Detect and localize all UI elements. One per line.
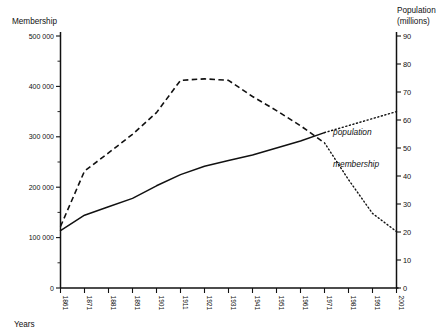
right-tick-label: 10 (403, 256, 411, 265)
left-axis: 0100 000200 000300 000400 000500 000 (29, 32, 61, 292)
x-tick-label: 1941 (254, 296, 261, 311)
left-tick-label: 0 (50, 285, 54, 292)
left-tick-label: 500 000 (29, 33, 54, 40)
right-axis-title-line2: (millions) (397, 17, 430, 26)
x-axis: 1861187118811891190119111921193119411951… (61, 288, 406, 311)
right-axis: 0102030405060708090 (397, 32, 412, 293)
series-group (61, 79, 397, 232)
x-tick-label: 2001 (398, 296, 405, 311)
series-line-population (61, 133, 325, 231)
right-tick-label: 70 (403, 88, 411, 97)
x-tick-label: 1901 (158, 296, 165, 311)
right-tick-label: 30 (403, 200, 411, 209)
right-tick-label: 60 (403, 116, 411, 125)
x-tick-label: 1921 (206, 296, 213, 311)
right-tick-label: 90 (403, 32, 411, 41)
x-axis-title: Years (14, 320, 35, 329)
series-label-population: population (332, 127, 372, 137)
series-projection-membership (325, 143, 397, 232)
x-tick-label: 1951 (278, 296, 285, 311)
right-tick-label: 0 (403, 284, 407, 293)
x-tick-label: 1931 (230, 296, 237, 311)
x-tick-label: 1861 (62, 296, 69, 311)
left-tick-label: 200 000 (29, 184, 54, 191)
x-tick-label: 1961 (302, 296, 309, 311)
right-tick-label: 40 (403, 172, 411, 181)
right-axis-title-line1: Population (397, 6, 436, 15)
right-tick-label: 80 (403, 60, 411, 69)
right-tick-label: 50 (403, 144, 411, 153)
series-label-membership: membership (333, 159, 379, 169)
x-tick-label: 1911 (182, 296, 189, 311)
x-tick-label: 1881 (110, 296, 117, 311)
x-tick-label: 1981 (350, 296, 357, 311)
chart-container: Membership Population (millions) Years 0… (0, 0, 441, 334)
series-line-membership (61, 79, 325, 227)
x-tick-label: 1991 (374, 296, 381, 311)
left-tick-label: 100 000 (29, 234, 54, 241)
line-chart: Membership Population (millions) Years 0… (0, 0, 441, 334)
left-axis-title: Membership (12, 17, 57, 26)
x-tick-label: 1871 (86, 296, 93, 311)
x-tick-label: 1891 (134, 296, 141, 311)
left-tick-label: 400 000 (29, 83, 54, 90)
x-tick-label: 1971 (326, 296, 333, 311)
left-tick-label: 300 000 (29, 133, 54, 140)
right-tick-label: 20 (403, 228, 411, 237)
